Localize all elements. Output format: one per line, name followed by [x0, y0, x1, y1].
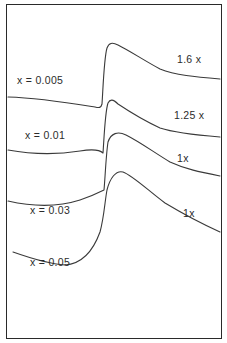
label-x-001: x = 0.01: [25, 130, 65, 141]
label-x-0005: x = 0.005: [17, 75, 63, 86]
label-x-003: x = 0.03: [30, 205, 70, 216]
spectra-figure: x = 0.005 x = 0.01 x = 0.03 x = 0.05 1.6…: [0, 0, 227, 343]
trace-x-003: [8, 133, 220, 205]
traces-canvas: [0, 0, 227, 343]
label-x-005: x = 0.05: [30, 257, 70, 268]
gain-label-1x-a: 1x: [177, 153, 189, 164]
gain-label-1-6x: 1.6 x: [177, 54, 201, 65]
gain-label-1x-b: 1x: [183, 208, 195, 219]
gain-label-1-25x: 1.25 x: [174, 110, 204, 121]
